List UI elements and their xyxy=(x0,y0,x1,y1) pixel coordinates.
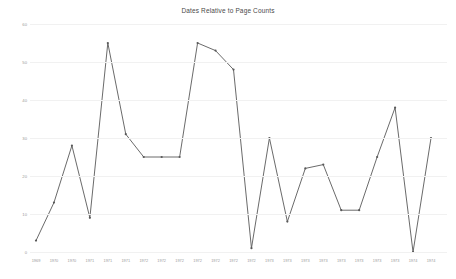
plot-area xyxy=(30,24,447,252)
data-point xyxy=(322,164,324,166)
x-tick-label: 1970 xyxy=(50,258,59,263)
chart-container: Dates Relative to Page Counts 0102030405… xyxy=(0,0,456,279)
data-point xyxy=(358,209,360,211)
data-point xyxy=(232,69,234,71)
x-tick-label: 1974 xyxy=(409,258,418,263)
data-point xyxy=(340,209,342,211)
series-line xyxy=(36,43,431,252)
data-point xyxy=(286,221,288,223)
data-point xyxy=(304,167,306,169)
data-point xyxy=(71,145,73,147)
data-point xyxy=(125,133,127,135)
gridline xyxy=(30,62,447,63)
y-tick-label: 40 xyxy=(11,98,27,103)
x-tick-label: 1973 xyxy=(319,258,328,263)
data-point xyxy=(143,156,145,158)
y-tick-label: 60 xyxy=(11,22,27,27)
data-point xyxy=(394,107,396,109)
data-point xyxy=(89,217,91,219)
data-point xyxy=(214,50,216,52)
x-tick-label: 1971 xyxy=(103,258,112,263)
x-tick-label: 1971 xyxy=(86,258,95,263)
x-tick-label: 1973 xyxy=(391,258,400,263)
data-point xyxy=(196,42,198,44)
y-tick-label: 50 xyxy=(11,60,27,65)
gridline xyxy=(30,252,447,253)
data-point xyxy=(179,156,181,158)
data-point xyxy=(376,156,378,158)
x-axis: 1969197019701971197119711972197219721972… xyxy=(30,258,447,270)
data-point xyxy=(250,247,252,249)
data-point xyxy=(53,202,55,204)
x-tick-label: 1973 xyxy=(355,258,364,263)
x-tick-label: 1973 xyxy=(265,258,274,263)
x-tick-label: 1973 xyxy=(301,258,310,263)
x-tick-label: 1973 xyxy=(337,258,346,263)
x-tick-label: 1970 xyxy=(68,258,77,263)
chart-title: Dates Relative to Page Counts xyxy=(0,7,456,14)
data-point xyxy=(35,240,37,242)
y-axis: 0102030405060 xyxy=(10,24,27,252)
x-tick-label: 1972 xyxy=(229,258,238,263)
x-tick-label: 1971 xyxy=(121,258,130,263)
y-tick-label: 30 xyxy=(11,136,27,141)
gridline xyxy=(30,24,447,25)
x-tick-label: 1973 xyxy=(373,258,382,263)
x-tick-label: 1974 xyxy=(427,258,436,263)
x-tick-label: 1972 xyxy=(175,258,184,263)
x-tick-label: 1972 xyxy=(157,258,166,263)
y-tick-label: 10 xyxy=(11,212,27,217)
x-tick-label: 1972 xyxy=(211,258,220,263)
gridline xyxy=(30,214,447,215)
data-point xyxy=(107,42,109,44)
x-tick-label: 1973 xyxy=(283,258,292,263)
gridline xyxy=(30,138,447,139)
y-tick-label: 0 xyxy=(11,250,27,255)
x-tick-label: 1969 xyxy=(32,258,41,263)
y-tick-label: 20 xyxy=(11,174,27,179)
x-tick-label: 1972 xyxy=(139,258,148,263)
data-point xyxy=(161,156,163,158)
x-tick-label: 1972 xyxy=(193,258,202,263)
gridline xyxy=(30,100,447,101)
x-tick-label: 1972 xyxy=(247,258,256,263)
gridline xyxy=(30,176,447,177)
